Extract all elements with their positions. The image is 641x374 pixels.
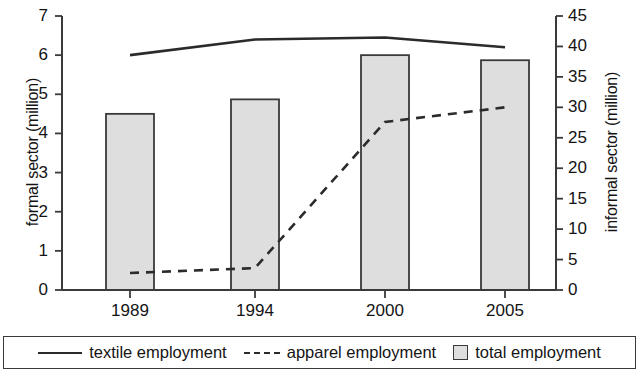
bar-series [106, 55, 529, 290]
legend-item-textile: textile employment [38, 343, 227, 362]
y-tick-label-right: 45 [568, 7, 602, 24]
legend-label-apparel: apparel employment [287, 343, 437, 362]
apparel-employment-line [130, 107, 505, 273]
y-tick-label-right: 20 [568, 159, 602, 176]
y-tick-label-right: 25 [568, 129, 602, 146]
x-tick-label: 2005 [470, 301, 540, 321]
dashed-line-icon [244, 352, 280, 354]
solid-line-icon [38, 352, 82, 354]
chart-legend: textile employment apparel employment to… [3, 336, 636, 369]
x-tick-label: 1994 [220, 301, 290, 321]
legend-label-total: total employment [475, 343, 601, 362]
y-tick-label-left: 3 [18, 164, 48, 181]
bar [106, 114, 154, 290]
y-tick-label-right: 10 [568, 220, 602, 237]
y-tick-label-right: 40 [568, 37, 602, 54]
legend-label-textile: textile employment [89, 343, 227, 362]
y-tick-label-left: 4 [18, 124, 48, 141]
bar [361, 55, 409, 290]
plot-area [0, 0, 641, 330]
y-tick-label-right: 30 [568, 98, 602, 115]
y-tick-label-right: 15 [568, 190, 602, 207]
y-tick-label-left: 7 [18, 7, 48, 24]
chart-figure: formal sector (million) informal sector … [0, 0, 641, 374]
bar [231, 99, 279, 290]
y-tick-label-right: 5 [568, 251, 602, 268]
y-tick-label-left: 0 [18, 281, 48, 298]
x-tick-label: 1989 [95, 301, 165, 321]
bar [481, 60, 529, 290]
y-tick-label-left: 2 [18, 203, 48, 220]
legend-item-apparel: apparel employment [244, 343, 437, 362]
gray-square-icon [453, 345, 468, 360]
y-tick-label-right: 35 [568, 68, 602, 85]
textile-employment-line [130, 38, 505, 56]
y-tick-label-left: 5 [18, 85, 48, 102]
y-tick-label-left: 6 [18, 46, 48, 63]
legend-item-total: total employment [453, 343, 601, 362]
y-tick-label-right: 0 [568, 281, 602, 298]
y-tick-label-left: 1 [18, 242, 48, 259]
x-tick-label: 2000 [350, 301, 420, 321]
